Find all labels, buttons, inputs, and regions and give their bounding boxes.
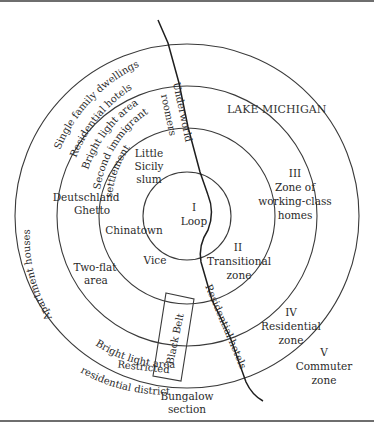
zone-3-name: Zone of	[275, 181, 316, 193]
zone-4-name: Residential	[261, 320, 321, 332]
zone-2-numeral: II	[234, 241, 242, 253]
ghetto-label: Ghetto	[74, 204, 110, 216]
zone-3-name2: working-class	[258, 195, 331, 207]
bungalow-label: Bungalow	[161, 390, 214, 402]
chinatown-label: Chinatown	[105, 224, 163, 236]
zone-3-name3: homes	[278, 209, 313, 221]
little-sicily-label-3: slum	[136, 173, 162, 185]
zone-4-numeral: IV	[285, 306, 297, 318]
zone-3-numeral: III	[289, 167, 301, 179]
zone-1-numeral: I	[192, 201, 196, 213]
zone-4-name2: zone	[279, 334, 304, 346]
lake-michigan-label: LAKE MICHIGAN	[227, 103, 327, 116]
concentric-zone-diagram: LAKE MICHIGAN Single family dwellings Re…	[0, 0, 374, 435]
zone-5-numeral: V	[319, 346, 328, 358]
section-label: section	[168, 403, 206, 415]
two-flat-label: Two-flat	[74, 261, 118, 273]
zone-2-name: Transitional	[207, 255, 272, 267]
little-sicily-label-2: Sicily	[134, 160, 163, 172]
zone-2-name2: zone	[227, 269, 252, 281]
deutschland-label: Deutschland	[53, 191, 120, 203]
zone-5-name2: zone	[312, 374, 337, 386]
vice-label: Vice	[143, 254, 167, 266]
residential-hotels-shore-label: Residential hotels	[203, 282, 249, 370]
zone-5-name: Commuter	[296, 360, 353, 372]
zone-1-name: Loop	[181, 215, 208, 227]
two-flat-area-label: area	[84, 274, 108, 286]
apartment-houses-label: Apartment houses	[21, 229, 54, 323]
little-sicily-label-1: Little	[135, 147, 163, 159]
black-belt-label: Black Belt	[164, 312, 186, 365]
